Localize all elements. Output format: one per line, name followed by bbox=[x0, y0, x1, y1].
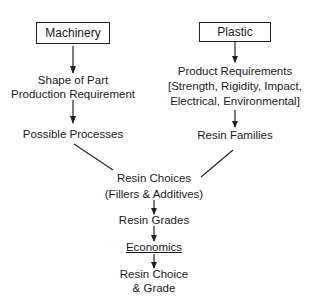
plastic-box: Plastic bbox=[199, 22, 271, 42]
product-requirements-line2: [Strength, Rigidity, Impact, bbox=[165, 79, 305, 94]
connector-lines bbox=[0, 0, 325, 305]
resin-choices-node: Resin Choices (Fillers & Additives) bbox=[84, 170, 224, 202]
product-requirements-line1: Product Requirements bbox=[165, 64, 305, 79]
economics-node: Economics bbox=[84, 240, 224, 254]
resin-choice-grade-node: Resin Choice & Grade bbox=[84, 267, 224, 295]
machinery-box: Machinery bbox=[36, 22, 110, 44]
shape-of-part-node: Shape of Part Production Requirement bbox=[0, 73, 146, 101]
shape-of-part-line2: Production Requirement bbox=[0, 87, 146, 101]
result-line2: & Grade bbox=[84, 281, 224, 295]
possible-processes-node: Possible Processes bbox=[0, 127, 146, 141]
product-requirements-node: Product Requirements [Strength, Rigidity… bbox=[165, 64, 305, 109]
machinery-label: Machinery bbox=[45, 26, 100, 40]
resin-choices-line2: (Fillers & Additives) bbox=[84, 186, 224, 202]
product-requirements-line3: Electrical, Environmental] bbox=[165, 94, 305, 109]
resin-grades-node: Resin Grades bbox=[84, 213, 224, 227]
resin-choices-line1: Resin Choices bbox=[84, 170, 224, 186]
shape-of-part-line1: Shape of Part bbox=[0, 73, 146, 87]
resin-families-node: Resin Families bbox=[165, 128, 305, 142]
plastic-label: Plastic bbox=[217, 25, 252, 39]
line-processes-to-choices bbox=[74, 144, 113, 170]
result-line1: Resin Choice bbox=[84, 267, 224, 281]
